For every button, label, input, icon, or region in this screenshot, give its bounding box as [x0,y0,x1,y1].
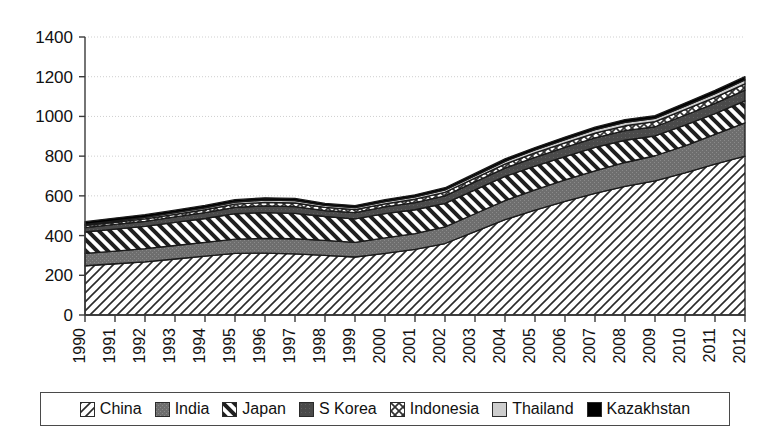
legend-label: China [100,401,142,417]
legend-swatch-gray-dark-icon [299,402,314,417]
legend-label: Japan [242,401,286,417]
x-axis-tick-label: 1994 [191,328,208,364]
legend-item-china[interactable]: China [80,401,142,417]
legend-swatch-gray-medium-icon [155,402,170,417]
x-axis-tick-label: 1996 [251,328,268,364]
x-axis-tick-label: 2009 [641,328,658,364]
legend-swatch-gray-light-icon [492,402,507,417]
chart-legend: ChinaIndiaJapanS KoreaIndonesiaThailandK… [40,392,730,426]
y-axis-tick-label: 1200 [35,68,73,87]
legend-item-india[interactable]: India [155,401,210,417]
x-axis-tick-label: 2010 [671,328,688,364]
y-axis-tick-label: 1000 [35,107,73,126]
x-axis [85,315,745,322]
x-axis-tick-label: 2007 [581,328,598,364]
legend-item-kazakhstan[interactable]: Kazakhstan [587,401,691,417]
chart-plot-area: 0200400600800100012001400 19901991199219… [0,0,772,400]
x-axis-tick-label: 2005 [521,328,538,364]
x-axis-tick-label: 1997 [281,328,298,364]
legend-swatch-solid-black-icon [587,402,602,417]
legend-label: India [175,401,210,417]
x-axis-tick-label: 1990 [71,328,88,364]
y-axis-tick-label: 800 [45,147,73,166]
x-axis-tick-label: 1993 [161,328,178,364]
legend-label: Kazakhstan [607,401,691,417]
legend-label: Thailand [512,401,573,417]
y-axis-tick-labels: 0200400600800100012001400 [35,28,73,325]
x-axis-tick-label: 1992 [131,328,148,364]
legend-swatch-diagonal-hatch-down-icon [222,402,237,417]
x-axis-tick-label: 2003 [461,328,478,364]
legend-swatch-crosshatch-icon [390,402,405,417]
y-axis-tick-label: 1400 [35,28,73,47]
y-axis-tick-label: 600 [45,187,73,206]
x-axis-tick-label: 2011 [701,328,718,363]
y-axis [79,37,85,315]
y-axis-tick-label: 200 [45,266,73,285]
legend-label: S Korea [319,401,377,417]
legend-label: Indonesia [410,401,479,417]
x-axis-tick-label: 2012 [731,328,748,364]
y-axis-tick-label: 0 [64,306,73,325]
y-axis-tick-label: 400 [45,227,73,246]
x-axis-tick-label: 2008 [611,328,628,364]
x-axis-tick-label: 2001 [401,328,418,364]
x-axis-tick-labels: 1990199119921993199419951996199719981999… [71,328,748,364]
stacked-area-chart: 0200400600800100012001400 19901991199219… [0,0,772,440]
x-axis-tick-label: 1999 [341,328,358,364]
x-axis-tick-label: 1995 [221,328,238,364]
x-axis-tick-label: 2006 [551,328,568,364]
legend-item-japan[interactable]: Japan [222,401,286,417]
x-axis-tick-label: 2000 [371,328,388,364]
x-axis-tick-label: 2002 [431,328,448,364]
legend-item-indonesia[interactable]: Indonesia [390,401,479,417]
legend-item-thailand[interactable]: Thailand [492,401,573,417]
x-axis-tick-label: 1998 [311,328,328,364]
legend-item-s-korea[interactable]: S Korea [299,401,377,417]
legend-swatch-diagonal-hatch-up-icon [80,402,95,417]
x-axis-tick-label: 1991 [101,328,118,364]
x-axis-tick-label: 2004 [491,328,508,364]
